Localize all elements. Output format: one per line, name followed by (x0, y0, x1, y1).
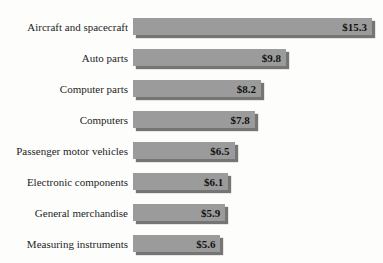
value-label: $9.8 (262, 52, 286, 64)
bar: $8.2 (133, 80, 261, 97)
chart-row: Passenger motor vehicles$6.5 (0, 135, 383, 166)
category-label: Computers (0, 114, 133, 126)
chart-row: General merchandise$5.9 (0, 197, 383, 228)
chart-row: Auto parts$9.8 (0, 42, 383, 73)
value-label: $5.6 (196, 238, 220, 250)
value-label: $8.2 (237, 83, 261, 95)
bar: $7.8 (133, 111, 255, 128)
bar-chart: Aircraft and spacecraft$15.3Auto parts$9… (0, 0, 383, 263)
category-label: Measuring instruments (0, 238, 133, 250)
value-label: $15.3 (342, 21, 372, 33)
value-label: $5.9 (201, 207, 225, 219)
bar: $6.5 (133, 142, 235, 159)
value-label: $7.8 (231, 114, 255, 126)
bar: $6.1 (133, 173, 228, 190)
category-label: Electronic components (0, 176, 133, 188)
bar-track: $6.1 (133, 173, 373, 190)
bar: $5.6 (133, 235, 220, 252)
bar-track: $5.6 (133, 235, 373, 252)
bar-track: $6.5 (133, 142, 373, 159)
bar-track: $7.8 (133, 111, 373, 128)
category-label: Computer parts (0, 83, 133, 95)
chart-row: Electronic components$6.1 (0, 166, 383, 197)
chart-row: Aircraft and spacecraft$15.3 (0, 11, 383, 42)
bar: $5.9 (133, 204, 225, 221)
chart-row: Computers$7.8 (0, 104, 383, 135)
chart-rows: Aircraft and spacecraft$15.3Auto parts$9… (0, 11, 383, 259)
chart-row: Computer parts$8.2 (0, 73, 383, 104)
bar-track: $15.3 (133, 18, 373, 35)
bar-track: $8.2 (133, 80, 373, 97)
bar-track: $9.8 (133, 49, 373, 66)
category-label: General merchandise (0, 207, 133, 219)
category-label: Aircraft and spacecraft (0, 21, 133, 33)
bar: $15.3 (133, 18, 372, 35)
value-label: $6.1 (204, 176, 228, 188)
chart-row: Measuring instruments$5.6 (0, 228, 383, 259)
value-label: $6.5 (210, 145, 234, 157)
category-label: Auto parts (0, 52, 133, 64)
bar: $9.8 (133, 49, 286, 66)
bar-track: $5.9 (133, 204, 373, 221)
category-label: Passenger motor vehicles (0, 145, 133, 157)
